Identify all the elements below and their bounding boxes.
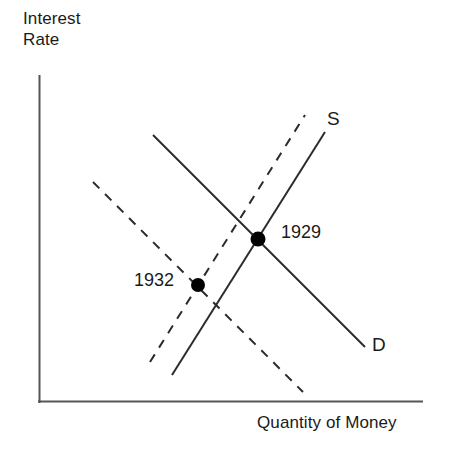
equilibrium-markers [191, 232, 266, 293]
supply-curve-label: S [327, 108, 340, 129]
supply-curve-solid [172, 132, 325, 375]
figure-canvas: InterestRate Quantity of Money S D 1929 … [0, 0, 452, 451]
money-market-diagram [0, 0, 452, 451]
marker-1929 [251, 232, 266, 247]
equilibrium-label-1932: 1932 [134, 270, 174, 290]
marker-1932 [191, 278, 205, 292]
demand-curve-label: D [372, 334, 386, 355]
x-axis-label: Quantity of Money [257, 412, 397, 433]
y-axis-label-line1: Interest [23, 9, 81, 28]
y-axis-label: InterestRate [23, 8, 81, 50]
y-axis-label-line2: Rate [23, 30, 59, 49]
curves [93, 115, 365, 392]
equilibrium-label-1929: 1929 [281, 222, 321, 242]
axes [39, 76, 422, 402]
